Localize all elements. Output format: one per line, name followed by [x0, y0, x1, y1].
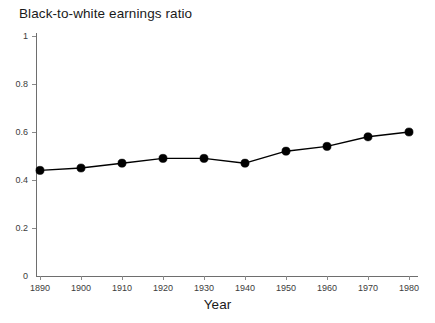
data-series: 1890: 0.441900: 0.451910: 0.471920: 0.49… [36, 128, 413, 175]
x-tick-label: 1920 [153, 283, 173, 293]
data-point-marker: 1900: 0.45 [77, 164, 85, 172]
x-tick-label: 1980 [399, 283, 419, 293]
x-tick-label: 1900 [71, 283, 91, 293]
data-point-marker: 1930: 0.49 [200, 154, 208, 162]
y-tick-label: 0.6 [15, 127, 28, 137]
x-tick-label: 1940 [235, 283, 255, 293]
data-point-marker: 1970: 0.58 [364, 133, 372, 141]
x-tick-label: 1910 [112, 283, 132, 293]
y-axis: 00.20.40.60.81 [15, 31, 36, 281]
data-point-marker: 1920: 0.49 [159, 154, 167, 162]
y-tick-label: 0 [23, 271, 28, 281]
y-tick-label: 1 [23, 31, 28, 41]
data-point-marker: 1890: 0.44 [36, 166, 44, 174]
x-axis-title: Year [0, 297, 435, 312]
plot-area: 00.20.40.60.81 1890190019101920193019401… [0, 0, 435, 323]
x-tick-label: 1930 [194, 283, 214, 293]
x-tick-label: 1960 [317, 283, 337, 293]
data-point-marker: 1950: 0.52 [282, 147, 290, 155]
y-tick-label: 0.2 [15, 223, 28, 233]
series-line [40, 132, 409, 170]
y-tick-label: 0.4 [15, 175, 28, 185]
x-tick-label: 1970 [358, 283, 378, 293]
x-tick-label: 1890 [30, 283, 50, 293]
data-point-marker: 1980: 0.6 [405, 128, 413, 136]
data-point-marker: 1960: 0.54 [323, 142, 331, 150]
y-tick-label: 0.8 [15, 79, 28, 89]
data-point-marker: 1940: 0.47 [241, 159, 249, 167]
x-tick-label: 1950 [276, 283, 296, 293]
chart-figure: Black-to-white earnings ratio 00.20.40.6… [0, 0, 435, 323]
data-point-marker: 1910: 0.47 [118, 159, 126, 167]
x-axis: 1890190019101920193019401950196019701980 [30, 276, 419, 293]
